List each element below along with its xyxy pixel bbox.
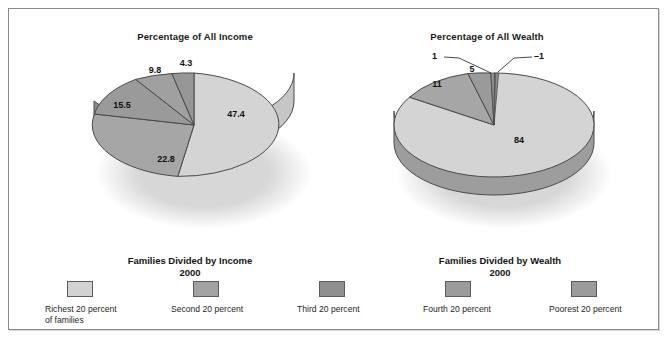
legend-label-richest: Richest 20 percent of families bbox=[45, 304, 117, 325]
legend-swatch-fourth bbox=[445, 281, 471, 297]
legend-swatch-second bbox=[193, 281, 219, 297]
caption-wealth-line2: 2000 bbox=[375, 267, 625, 279]
legend-item-fourth: Fourth 20 percent bbox=[405, 281, 531, 333]
caption-wealth: Families Divided by Wealth 2000 bbox=[375, 255, 625, 279]
legend-label-third: Third 20 percent bbox=[297, 304, 360, 315]
pie-chart-wealth: 84 11 5 1 –1 bbox=[364, 45, 624, 245]
legend-label-fourth: Fourth 20 percent bbox=[423, 304, 491, 315]
pie-label-wealth-second: 11 bbox=[432, 79, 442, 89]
legend-item-third: Third 20 percent bbox=[279, 281, 405, 333]
figure-root: Percentage of All Income Percentage of A… bbox=[0, 0, 669, 344]
caption-income-line1: Families Divided by Income bbox=[65, 255, 315, 267]
pie-label-wealth-richest: 84 bbox=[514, 135, 524, 145]
pie-label-wealth-poorest: –1 bbox=[534, 51, 544, 61]
leader-line-fourth bbox=[444, 57, 491, 73]
caption-income: Families Divided by Income 2000 bbox=[65, 255, 315, 279]
pie-label-income-third: 15.5 bbox=[113, 100, 131, 110]
legend-label-second: Second 20 percent bbox=[171, 304, 243, 315]
pie-label-income-richest: 47.4 bbox=[227, 109, 245, 119]
caption-income-line2: 2000 bbox=[65, 267, 315, 279]
legend-label-poorest: Poorest 20 percent bbox=[549, 304, 622, 315]
pie-label-wealth-third: 5 bbox=[469, 64, 474, 74]
legend-item-second: Second 20 percent bbox=[153, 281, 279, 333]
legend-swatch-third bbox=[319, 281, 345, 297]
pie-label-wealth-fourth: 1 bbox=[432, 51, 437, 61]
pie-label-income-poorest: 4.3 bbox=[180, 58, 193, 68]
caption-wealth-line1: Families Divided by Wealth bbox=[375, 255, 625, 267]
leader-line-poorest bbox=[498, 57, 532, 72]
chart-title-income: Percentage of All Income bbox=[105, 31, 285, 42]
chart-title-wealth: Percentage of All Wealth bbox=[397, 31, 577, 42]
legend-item-richest: Richest 20 percent of families bbox=[27, 281, 153, 333]
pie-chart-income: 47.4 22.8 15.5 9.8 4.3 bbox=[64, 45, 324, 245]
figure-border: Percentage of All Income Percentage of A… bbox=[8, 8, 659, 330]
legend: Richest 20 percent of families Second 20… bbox=[27, 281, 657, 333]
legend-swatch-richest bbox=[67, 281, 93, 297]
pie-label-income-second: 22.8 bbox=[157, 154, 175, 164]
legend-swatch-poorest bbox=[571, 281, 597, 297]
pie-label-income-fourth: 9.8 bbox=[149, 65, 162, 75]
legend-item-poorest: Poorest 20 percent bbox=[531, 281, 657, 333]
